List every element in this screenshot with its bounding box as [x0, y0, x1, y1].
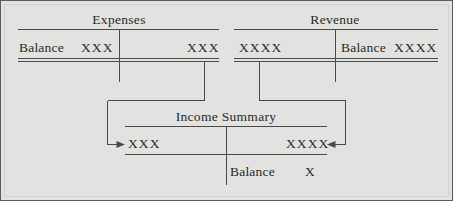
- expenses-credit-amount: XXX: [187, 41, 220, 55]
- expenses-debit-amount: XXX: [81, 41, 114, 55]
- expenses-account-title: Expenses: [92, 13, 145, 27]
- expenses-debit-balance-label: Balance: [19, 41, 64, 55]
- revenue-debit-amount: XXXX: [239, 41, 282, 55]
- diagram-lines-layer: [1, 1, 453, 201]
- connector-left-arrowhead: [117, 141, 126, 148]
- income-summary-balance-label: Balance: [230, 165, 275, 179]
- income-summary-balance-amount: X: [305, 165, 316, 179]
- revenue-account-title: Revenue: [310, 13, 359, 27]
- revenue-credit-balance-label: Balance: [341, 41, 386, 55]
- income-summary-debit-amount: XXX: [128, 137, 161, 151]
- income-summary-credit-amount: XXXX: [286, 137, 329, 151]
- closing-entries-figure: Expenses Balance XXX XXX Revenue XXXX Ba…: [0, 0, 453, 201]
- revenue-credit-amount: XXXX: [394, 41, 437, 55]
- income-summary-account-title: Income Summary: [176, 110, 277, 124]
